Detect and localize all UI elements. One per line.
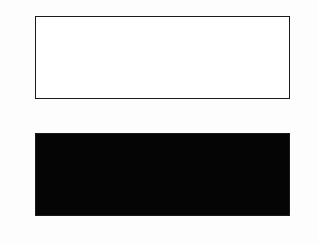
top-panel-axes <box>35 16 290 99</box>
tangential-velocity-plot <box>36 17 291 100</box>
figure-canvas <box>0 0 318 243</box>
bottom-panel-heatmap <box>35 133 290 216</box>
offset-time-correlation-image <box>36 134 290 216</box>
